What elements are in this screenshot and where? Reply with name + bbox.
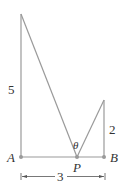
label-right-height: 2	[109, 122, 116, 137]
label-B: B	[110, 150, 118, 165]
label-theta: θ	[73, 139, 79, 151]
geometry-diagram: 5 2 θ A B P 3	[0, 0, 125, 191]
point-B	[102, 155, 106, 159]
point-P	[75, 155, 79, 159]
label-left-height: 5	[8, 82, 15, 97]
wire-left	[21, 14, 77, 157]
label-base-length: 3	[57, 169, 64, 184]
label-A: A	[6, 150, 15, 165]
wire-right	[77, 100, 104, 157]
arrowhead-left-icon	[22, 175, 27, 178]
point-A	[19, 155, 23, 159]
label-P: P	[72, 160, 81, 175]
arrowhead-right-icon	[99, 175, 104, 178]
